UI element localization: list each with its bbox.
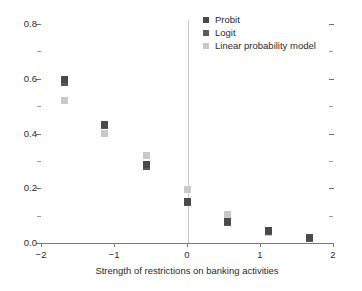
y-axis-label: 0.4 bbox=[7, 129, 37, 139]
x-tick bbox=[260, 243, 261, 247]
legend-label: Logit bbox=[215, 28, 236, 38]
x-axis-label: −1 bbox=[102, 250, 126, 260]
x-tick bbox=[114, 243, 115, 247]
data-point bbox=[184, 186, 191, 193]
x-axis-title: Strength of restrictions on banking acti… bbox=[41, 265, 333, 276]
legend-swatch-icon bbox=[203, 17, 209, 23]
legend-item: Logit bbox=[203, 27, 316, 39]
x-axis-label: 1 bbox=[248, 250, 272, 260]
y-tick-major-right bbox=[329, 188, 334, 189]
data-point bbox=[224, 211, 231, 218]
y-axis-label: 0.2 bbox=[7, 183, 37, 193]
legend-swatch-icon bbox=[203, 43, 209, 49]
y-tick-major-right bbox=[329, 24, 334, 25]
x-tick bbox=[333, 243, 334, 247]
data-point bbox=[265, 227, 272, 234]
data-point bbox=[61, 76, 68, 83]
legend-label: Linear probability model bbox=[215, 41, 316, 51]
data-point bbox=[101, 121, 108, 128]
data-point bbox=[61, 97, 68, 104]
legend-item: Linear probability model bbox=[203, 40, 316, 52]
chart-figure: ProbitLogitLinear probability model Stre… bbox=[0, 0, 362, 291]
data-point bbox=[184, 198, 191, 205]
x-tick bbox=[41, 243, 42, 247]
y-tick-minor-left bbox=[37, 216, 41, 217]
y-tick-minor-left bbox=[37, 106, 41, 107]
x-tick bbox=[187, 243, 188, 247]
legend-label: Probit bbox=[215, 15, 240, 25]
y-tick-minor-right bbox=[329, 216, 333, 217]
y-axis-label: 0.6 bbox=[7, 74, 37, 84]
legend-swatch-icon bbox=[203, 30, 209, 36]
y-tick-major-right bbox=[329, 79, 334, 80]
y-tick-major-right bbox=[329, 134, 334, 135]
x-axis-label: −2 bbox=[29, 250, 53, 260]
y-tick-minor-right bbox=[329, 51, 333, 52]
y-tick-minor-right bbox=[329, 106, 333, 107]
data-point bbox=[143, 161, 150, 168]
legend-item: Probit bbox=[203, 14, 316, 26]
y-axis-label: 0.0 bbox=[7, 238, 37, 248]
plot-area bbox=[41, 24, 333, 243]
data-point bbox=[306, 234, 313, 241]
y-tick-minor-left bbox=[37, 161, 41, 162]
y-axis-label: 0.8 bbox=[7, 19, 37, 29]
x-axis-label: 0 bbox=[175, 250, 199, 260]
x-axis-label: 2 bbox=[321, 250, 345, 260]
y-tick-minor-right bbox=[329, 161, 333, 162]
chart-legend: ProbitLogitLinear probability model bbox=[203, 14, 316, 53]
data-point bbox=[101, 130, 108, 137]
y-tick-minor-left bbox=[37, 51, 41, 52]
data-point bbox=[224, 218, 231, 225]
data-point bbox=[143, 152, 150, 159]
